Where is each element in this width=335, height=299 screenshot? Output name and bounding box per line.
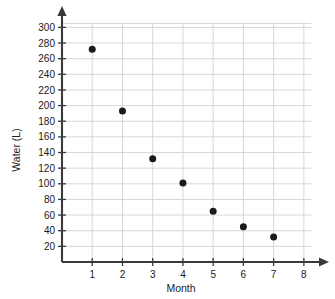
data-point	[149, 155, 156, 162]
plot-canvas: 2040608010012014016018020022024026028030…	[0, 0, 335, 299]
y-axis-tick-label: 160	[38, 131, 55, 142]
x-axis-tick-label: 8	[301, 269, 307, 280]
vertical-gridlines	[92, 23, 304, 262]
x-axis-tick-label: 3	[150, 269, 156, 280]
scatter-plot-figure: 2040608010012014016018020022024026028030…	[0, 0, 335, 299]
x-axis-tick-labels: 12345678	[89, 269, 307, 280]
x-axis-tick-label: 4	[180, 269, 186, 280]
y-axis-arrowhead	[57, 6, 66, 16]
y-axis-tick-label: 100	[38, 178, 55, 189]
x-axis-tick-label: 2	[120, 269, 126, 280]
y-axis-tick-labels: 2040608010012014016018020022024026028030…	[38, 22, 55, 252]
y-axis-tick-label: 180	[38, 116, 55, 127]
x-axis-tick-label: 1	[89, 269, 95, 280]
data-point	[119, 108, 126, 115]
y-axis-tick-label: 240	[38, 69, 55, 80]
x-axis-arrowhead	[319, 257, 329, 266]
y-axis-tick-label: 260	[38, 53, 55, 64]
y-axis-tick-label: 140	[38, 147, 55, 158]
y-axis-tick-label: 80	[44, 194, 56, 205]
y-axis-tick-label: 20	[44, 241, 56, 252]
data-point	[179, 180, 186, 187]
x-axis-tick-label: 7	[271, 269, 277, 280]
y-axis-tick-label: 220	[38, 85, 55, 96]
data-point	[89, 46, 96, 53]
y-axis-tick-label: 280	[38, 38, 55, 49]
x-axis-tick-label: 6	[241, 269, 247, 280]
data-point	[240, 223, 247, 230]
y-axis-tick-label: 40	[44, 225, 56, 236]
x-axis-tick-label: 5	[210, 269, 216, 280]
y-axis-tick-label: 120	[38, 163, 55, 174]
y-axis-tick-label: 60	[44, 210, 56, 221]
y-axis-tick-label: 200	[38, 100, 55, 111]
data-point	[210, 208, 217, 215]
x-axis-title: Month	[166, 282, 195, 294]
y-axis-title: Water (L)	[10, 128, 22, 171]
y-axis-tick-label: 300	[38, 22, 55, 33]
data-point	[270, 233, 277, 240]
